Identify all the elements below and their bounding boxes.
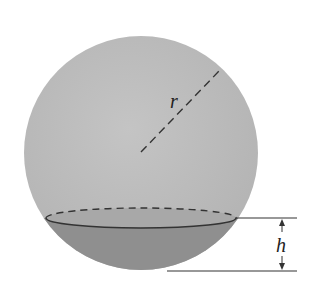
sphere-cap-diagram: r h (0, 0, 313, 288)
diagram-svg: r h (0, 0, 313, 288)
arrowhead-up-icon (279, 219, 285, 226)
arrowhead-down-icon (279, 263, 285, 270)
radius-label: r (170, 90, 178, 112)
height-label: h (276, 234, 286, 256)
